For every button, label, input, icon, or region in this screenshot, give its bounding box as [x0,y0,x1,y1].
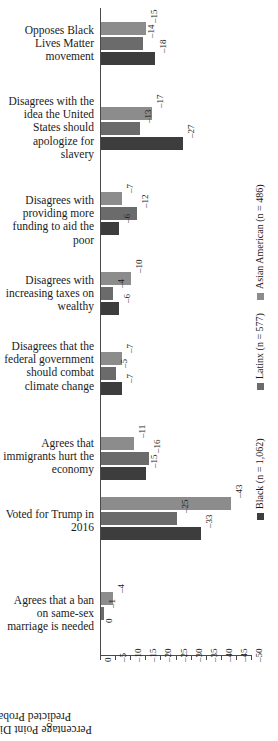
bar [101,22,146,35]
bar-value-label: –25 [181,500,190,514]
bar [101,137,183,150]
bar-value-label: –13 [144,110,153,124]
x-tick-label: –20 [164,649,173,663]
bar [101,512,177,525]
category-label: Disagrees that the federal government sh… [0,340,94,393]
bar [101,37,143,50]
category-label: Opposes Black Lives Matter movement [0,24,94,64]
bar-value-label: –33 [205,515,214,529]
legend-entry: Latinx (n = 577) [254,313,266,390]
category-label: Agrees that immigrants hurt the economy [0,437,94,477]
legend-swatch [257,293,264,300]
bar-value-label: –4 [117,584,126,593]
bar-value-label: –43 [235,485,244,499]
x-tick-mark [221,655,222,660]
bar-value-label: –17 [156,95,165,109]
x-tick-mark [176,655,177,660]
x-tick-label: –30 [195,649,204,663]
legend-label: Black (n = 1,062) [254,438,265,509]
x-tick-mark [145,655,146,660]
bar [101,287,113,300]
bar [101,52,155,65]
bar [101,367,116,380]
bar-value-label: –7 [126,344,135,353]
x-tick-label: –10 [134,649,143,663]
category-label: Disagrees with providing more funding to… [0,194,94,247]
bar-value-label: –10 [135,260,144,274]
bar [101,122,140,135]
x-tick-mark [191,655,192,660]
bar-value-label: –4 [117,279,126,288]
bar [101,192,122,205]
x-axis-title: Percentage Point Differences in Predicte… [0,710,104,736]
chart-legend: Black (n = 1,062)Latinx (n = 577)Asian A… [252,0,278,741]
bar [101,382,122,395]
bar [101,497,231,510]
bar-value-label: –11 [138,425,147,438]
x-tick-label: –35 [210,649,219,663]
bar-chart: 0–5–10–15–20–25–30–35–40–45–50 Opposes B… [0,0,278,741]
bar-value-label: –5 [120,359,129,368]
x-tick-label: –5 [119,653,128,662]
legend-label: Asian American (n = 486) [254,184,265,289]
bar-value-label: –15 [150,10,159,24]
bar [101,302,119,315]
category-label: Agrees that a ban on same-sex marriage i… [0,594,94,634]
x-tick-label: –15 [149,649,158,663]
x-tick-label: –40 [225,649,234,663]
legend-entry: Black (n = 1,062) [254,438,266,520]
x-tick-mark [206,655,207,660]
bar [101,467,146,480]
x-tick-mark [160,655,161,660]
zero-axis-line [100,8,101,655]
bar-value-label: –14 [147,25,156,39]
category-label: Voted for Trump in 2016 [0,508,94,534]
bar-value-label: –6 [123,214,132,223]
bar-value-label: 0 [105,619,114,624]
x-tick-label: –25 [180,649,189,663]
x-tick-mark [115,655,116,660]
category-label: Disagrees with increasing taxes on wealt… [0,274,94,314]
bar-value-label: –6 [123,294,132,303]
legend-swatch [257,383,264,390]
bar [101,222,119,235]
bar-value-label: –1 [108,599,117,608]
bar-value-label: –7 [126,374,135,383]
legend-swatch [257,513,264,520]
x-tick-mark [100,655,101,660]
bar-value-label: –12 [141,195,150,209]
bar-value-label: –15 [150,455,159,469]
legend-label: Latinx (n = 577) [254,313,265,379]
bar-value-label: –18 [159,40,168,54]
bar [101,437,134,450]
x-tick-mark [236,655,237,660]
bar-value-label: –27 [187,125,196,139]
legend-entry: Asian American (n = 486) [254,184,266,300]
x-tick-mark [130,655,131,660]
bar [101,527,201,540]
bar-value-label: –16 [153,440,162,454]
bar-value-label: –7 [126,184,135,193]
bar [101,452,149,465]
category-label: Disagrees with the idea the United State… [0,95,94,161]
x-tick-label: 0 [104,658,113,663]
x-tick-label: –45 [240,649,249,663]
